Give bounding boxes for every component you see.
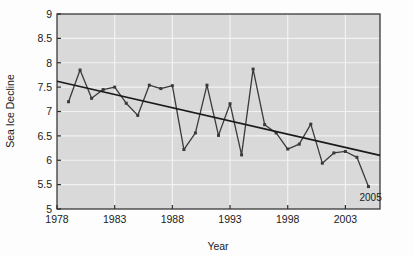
data-point-marker [125,102,128,105]
y-tick-label: 5.5 [37,178,52,190]
data-point-marker [263,123,266,126]
data-point-marker [321,162,324,165]
data-point-marker [194,131,197,134]
data-point-marker [171,84,174,87]
x-tick-label: 1998 [276,213,300,225]
y-axis-title: Sea Ice Decline [4,74,16,148]
data-point-marker [159,87,162,90]
data-point-marker [136,114,139,117]
data-point-marker [182,148,185,151]
data-point-marker [102,88,105,91]
data-point-marker [205,84,208,87]
y-tick-label: 6.5 [37,130,52,142]
y-tick-label: 8.5 [37,32,52,44]
data-point-marker [240,153,243,156]
data-point-marker [298,143,301,146]
x-tick-label: 1988 [161,213,185,225]
x-tick-label: 1983 [103,213,127,225]
x-tick-label: 2003 [334,213,358,225]
data-point-marker [217,134,220,137]
data-point-marker [286,148,289,151]
data-point-marker [367,185,370,188]
chart-figure: 197819831988199319982003 55.566.577.588.… [0,0,413,257]
data-point-marker [67,100,70,103]
data-point-marker [90,97,93,100]
x-axis-tick-labels: 197819831988199319982003 [45,213,357,225]
data-point-marker [113,86,116,89]
x-tick-label: 1993 [218,213,242,225]
y-tick-label: 8 [46,57,52,69]
sea-ice-decline-line-chart: 197819831988199319982003 55.566.577.588.… [0,0,413,257]
y-tick-label: 6 [46,154,52,166]
data-point-marker [309,123,312,126]
y-tick-label: 5 [46,203,52,215]
data-point-marker [355,156,358,159]
annotation-2005: 2005 [359,192,382,203]
y-tick-label: 7 [46,105,52,117]
data-point-marker [252,68,255,71]
y-tick-label: 9 [46,8,52,20]
x-axis-title: Year [207,240,229,252]
y-tick-label: 7.5 [37,81,52,93]
y-axis-tick-labels: 55.566.577.588.59 [37,8,52,215]
data-point-marker [148,84,151,87]
data-point-marker [79,69,82,72]
data-point-marker [344,150,347,153]
data-point-marker [332,151,335,154]
data-point-marker [229,102,232,105]
